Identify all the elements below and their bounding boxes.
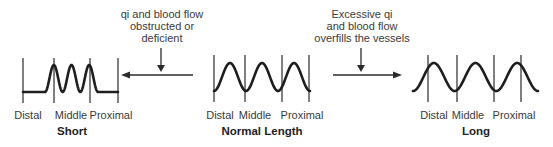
position-label-proximal: Proximal [281,109,324,121]
left-arrow-head [121,72,130,79]
pulse-wave-normal [214,63,310,91]
panel-long: Distal Middle Proximal Long [413,55,538,137]
position-label-distal: Distal [206,109,234,121]
pulse-wave-short [23,65,118,92]
arrow-to-long [333,48,402,79]
panel-title-short: Short [57,125,87,137]
annotation-excessive: Excessive qi and blood flow overfills th… [314,8,410,44]
panel-short: Distal Middle Proximal Short [14,58,132,137]
annotation-line: obstructed or [130,20,195,32]
panel-title-normal: Normal Length [221,125,302,137]
position-label-middle: Middle [239,109,271,121]
annotation-line: qi and blood flow [121,8,204,20]
down-arrow-head [157,65,165,72]
position-label-distal: Distal [420,109,448,121]
arrow-to-short [121,48,193,79]
pulse-length-diagram: qi and blood flow obstructed or deficien… [0,0,553,147]
annotation-deficient: qi and blood flow obstructed or deficien… [121,8,204,44]
down-arrow-head [357,65,365,72]
position-label-middle: Middle [55,109,87,121]
right-arrow-head [393,72,402,79]
annotation-line: Excessive qi [331,8,392,20]
annotation-line: overfills the vessels [314,32,410,44]
position-label-distal: Distal [14,109,42,121]
pulse-wave-long [413,63,538,91]
position-label-middle: Middle [452,109,484,121]
position-label-proximal: Proximal [493,109,536,121]
position-label-proximal: Proximal [90,109,133,121]
panel-normal: Distal Middle Proximal Normal Length [206,55,323,137]
annotation-line: and blood flow [327,20,398,32]
panel-title-long: Long [462,125,490,137]
annotation-line: deficient [142,32,183,44]
